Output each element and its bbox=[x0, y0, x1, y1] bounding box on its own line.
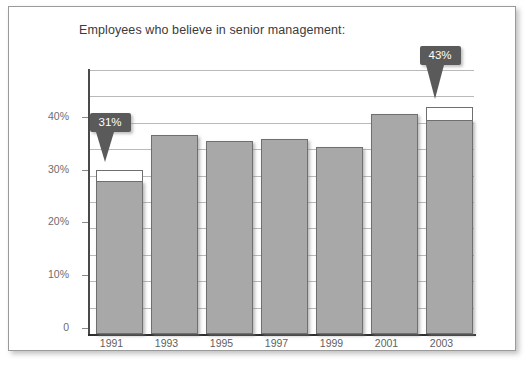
bar-fill bbox=[151, 135, 198, 334]
y-axis-label: 30% bbox=[9, 163, 79, 175]
y-axis-label: 10% bbox=[9, 268, 79, 280]
y-axis-tick bbox=[82, 328, 88, 329]
bar-fill bbox=[206, 141, 253, 334]
bar-fill bbox=[426, 120, 473, 334]
bar-highlight-cap bbox=[426, 107, 473, 120]
callout-bubble: 43% bbox=[420, 46, 461, 65]
x-axis-line bbox=[88, 334, 476, 336]
bar bbox=[426, 107, 473, 334]
bar-fill bbox=[96, 181, 143, 334]
callout-pointer bbox=[96, 132, 114, 162]
bar-fill bbox=[371, 114, 418, 334]
bar bbox=[206, 141, 253, 334]
chart-screenshot: Employees who believe in senior manageme… bbox=[0, 0, 530, 370]
y-axis-label: 0 bbox=[9, 321, 79, 333]
page-title: Employees who believe in senior manageme… bbox=[79, 23, 345, 37]
bar bbox=[151, 135, 198, 334]
y-axis-tick bbox=[82, 275, 88, 276]
chart-card: Employees who believe in senior manageme… bbox=[8, 6, 516, 351]
y-axis-tick bbox=[82, 222, 88, 223]
bar-series bbox=[89, 70, 474, 334]
y-axis-label: 20% bbox=[9, 215, 79, 227]
callout-bubble: 31% bbox=[90, 113, 131, 132]
callout-pointer bbox=[426, 65, 444, 99]
bar-highlight-cap bbox=[96, 170, 143, 181]
bar-fill bbox=[316, 147, 363, 334]
y-axis-label: 40% bbox=[9, 110, 79, 122]
bar bbox=[316, 147, 363, 334]
bar-fill bbox=[261, 139, 308, 334]
bar bbox=[96, 170, 143, 334]
y-axis-tick bbox=[82, 170, 88, 171]
bar bbox=[261, 139, 308, 334]
x-axis-label: 2003 bbox=[408, 337, 475, 349]
bar bbox=[371, 114, 418, 334]
y-axis-tick bbox=[82, 117, 88, 118]
